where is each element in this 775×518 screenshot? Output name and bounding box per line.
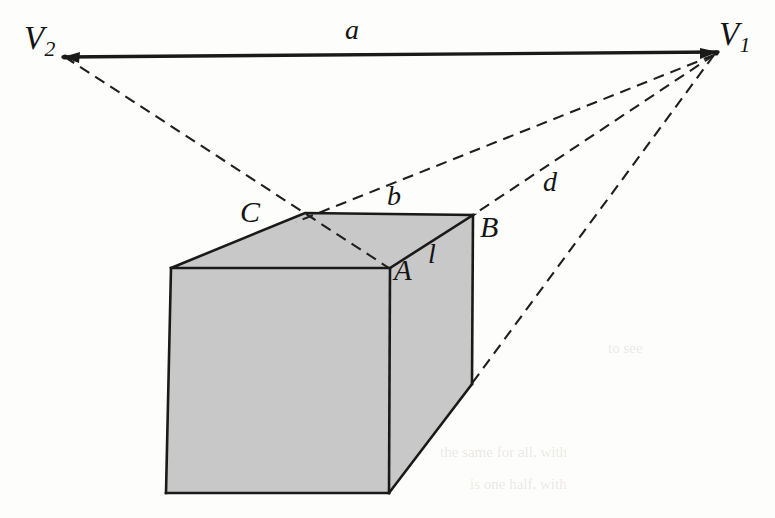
box-front-face (166, 268, 390, 493)
label-v2-subscript: 2 (44, 37, 55, 61)
guide-line-v1-to-vertex-b (470, 55, 714, 217)
horizon-line (63, 52, 718, 57)
label-v1-base: V (719, 16, 739, 52)
label-vanishing-point-v1: V1 (719, 18, 750, 57)
guide-line-v1-to-top-back-left (296, 55, 714, 222)
label-vanishing-point-v2: V2 (24, 22, 55, 61)
label-v1-subscript: 1 (739, 33, 750, 57)
label-vertex-b: B (480, 212, 498, 242)
label-vertex-c: C (240, 197, 260, 227)
figure-canvas (0, 0, 775, 518)
label-top-back-edge-b: b (387, 182, 401, 210)
perspective-figure: to see the same for all, with is one hal… (0, 0, 775, 518)
label-horizon-segment-a: a (345, 16, 359, 44)
label-vertex-a: A (394, 256, 412, 285)
box-faces (166, 213, 473, 493)
vanishing-point-v1-marker (713, 50, 718, 55)
label-guide-d: d (543, 168, 557, 196)
guide-line-v2-to-vertex-a (65, 57, 392, 270)
box-front-right-vertical-edge (389, 268, 390, 493)
label-vertical-edge-l: l (428, 240, 436, 268)
horizon-line-group (63, 48, 718, 63)
label-v2-base: V (24, 20, 44, 56)
vanishing-point-v2-marker (62, 54, 67, 59)
box-right-back-vertical-edge (472, 215, 473, 384)
